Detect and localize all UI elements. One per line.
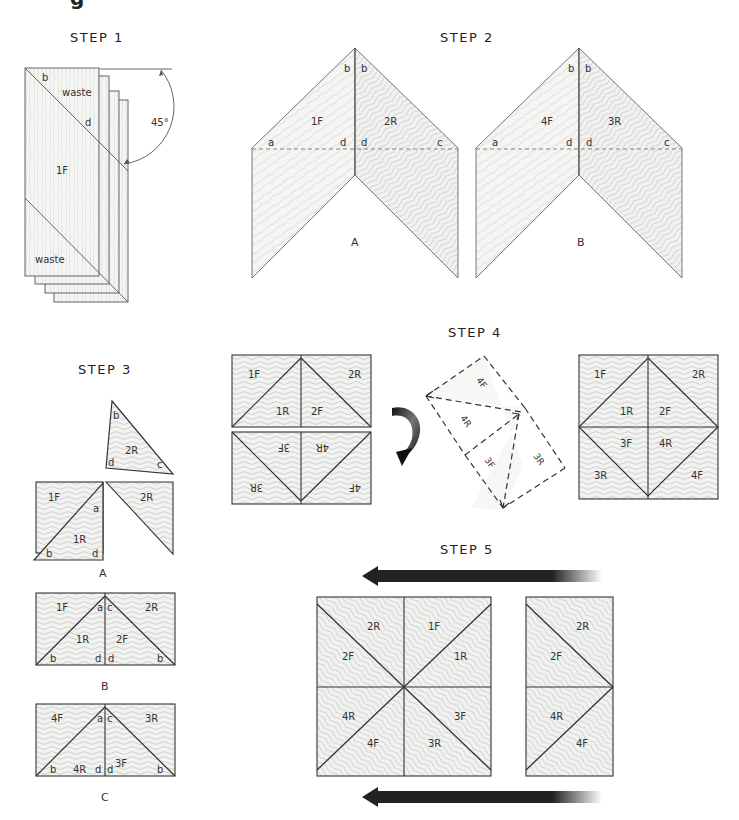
step4-left-piece-2F: 2F [311, 406, 323, 417]
step2b-corner-a: a [492, 137, 498, 148]
step3a-corner-b: b [46, 548, 52, 559]
step3-panel-a [34, 401, 173, 560]
step3b-piece-1F: 1F [56, 602, 68, 613]
step5-full-panel [317, 597, 491, 776]
step3c-piece-4R: 4R [73, 764, 86, 775]
step2b-corner-c: c [664, 137, 670, 148]
step3b-piece-2R: 2R [145, 602, 158, 613]
step3b-corner-c: c [107, 602, 113, 613]
step3a-float-c: c [157, 459, 163, 470]
step1-label-1F: 1F [56, 165, 68, 176]
step4-fold-piece-4R: 4R [458, 413, 473, 429]
step5-full-piece-4R: 4R [342, 711, 355, 722]
step2a-corner-c: c [437, 137, 443, 148]
step3b-corner-b-right: b [157, 653, 163, 664]
step3b-caption: B [101, 680, 109, 693]
step2b-piece-3R: 3R [608, 116, 621, 127]
step1-label-waste-top: waste [62, 87, 92, 98]
step3a-corner-d: d [92, 548, 98, 559]
step3c-corner-d-left: d [95, 764, 101, 775]
step2b-corner-b-right: b [585, 63, 591, 74]
step4-left-piece-1F: 1F [248, 369, 260, 380]
step3b-corner-d-left: d [95, 653, 101, 664]
step3a-float-b: b [113, 410, 119, 421]
step3c-corner-b-right: b [157, 764, 163, 775]
step3c-corner-a: a [97, 713, 103, 724]
step4-left-piece-3R-flipped: 3R [250, 482, 263, 493]
step4-left-piece-2R: 2R [348, 369, 361, 380]
step3b-corner-d-right: d [108, 653, 114, 664]
step2a-corner-b-left: b [344, 63, 350, 74]
step2b-caption: B [577, 236, 585, 249]
step1-angle-label: 45° [151, 117, 169, 128]
step4-right-piece-4R: 4R [659, 438, 672, 449]
step2b-corner-d-right: d [586, 137, 592, 148]
step2a-corner-d-right: d [361, 137, 367, 148]
step5-full-piece-1R: 1R [454, 651, 467, 662]
step3b-piece-1R: 1R [76, 634, 89, 645]
step3b-piece-2F: 2F [116, 634, 128, 645]
step4-left-piece-1R: 1R [276, 406, 289, 417]
step3c-piece-3R: 3R [145, 713, 158, 724]
step3a-float-d: d [108, 457, 114, 468]
step4-left-piece-4R-flipped: 4R [316, 442, 329, 453]
step4-right-piece-1F: 1F [594, 369, 606, 380]
step5-half-piece-4F: 4F [576, 738, 588, 749]
step3a-piece-2R: 2R [140, 492, 153, 503]
step1-label-b: b [42, 72, 48, 83]
step4-right-piece-4F: 4F [691, 470, 703, 481]
step2a-caption: A [351, 236, 359, 249]
step4-left-piece-3F-flipped: 3F [278, 442, 290, 453]
step1-board-stack [25, 68, 174, 302]
step3a-float-2R: 2R [125, 445, 138, 456]
step2b-piece-4F: 4F [541, 116, 553, 127]
step3a-caption: A [99, 567, 107, 580]
step4-fold-piece-3R: 3R [531, 451, 546, 467]
step4-left-piece-4F-flipped: 4F [349, 482, 361, 493]
step2a-corner-d-left: d [340, 137, 346, 148]
step3a-piece-1R: 1R [73, 534, 86, 545]
step2a-piece-1F: 1F [311, 116, 323, 127]
step3c-corner-c: c [107, 713, 113, 724]
step1-label-waste-bottom: waste [35, 254, 65, 265]
step5-full-piece-1F: 1F [428, 621, 440, 632]
step2b-corner-b-left: b [568, 63, 574, 74]
step5-full-piece-3F: 3F [454, 711, 466, 722]
step5-full-piece-2R: 2R [367, 621, 380, 632]
step4-right-piece-3F: 3F [620, 438, 632, 449]
step5-full-piece-2F: 2F [342, 651, 354, 662]
step3a-corner-a: a [93, 503, 99, 514]
step3c-corner-b-left: b [50, 764, 56, 775]
diagram-canvas: b waste d 1F waste 45° b b 1F 2R a d d c… [0, 0, 739, 820]
step2a-corner-b-right: b [361, 63, 367, 74]
step4-right-piece-2R: 2R [692, 369, 705, 380]
step4-right-piece-2F: 2F [659, 406, 671, 417]
arrow-left-icon-top [362, 566, 602, 586]
arrow-left-icon-bottom [362, 787, 602, 807]
step3c-caption: C [101, 791, 109, 804]
step5-half-piece-4R: 4R [550, 711, 563, 722]
step5-half-panel [526, 597, 613, 776]
step4-right-piece-1R: 1R [620, 406, 633, 417]
step3c-piece-4F: 4F [51, 713, 63, 724]
step5-half-piece-2F: 2F [550, 651, 562, 662]
step1-label-d: d [85, 117, 91, 128]
step3b-corner-b-left: b [50, 653, 56, 664]
step4-right-piece-3R: 3R [594, 470, 607, 481]
step5-full-piece-4F: 4F [367, 738, 379, 749]
step4-fold-diagram [426, 356, 565, 510]
step3a-piece-1F: 1F [48, 492, 60, 503]
step3b-corner-a: a [97, 602, 103, 613]
step5-full-piece-3R: 3R [428, 738, 441, 749]
step2b-corner-d-left: d [566, 137, 572, 148]
step3c-corner-d-right: d [107, 764, 113, 775]
flip-arrow-icon [392, 407, 420, 466]
step2a-piece-2R: 2R [384, 116, 397, 127]
step5-half-piece-2R: 2R [576, 621, 589, 632]
step3c-piece-3F: 3F [115, 758, 127, 769]
step2a-corner-a: a [268, 137, 274, 148]
